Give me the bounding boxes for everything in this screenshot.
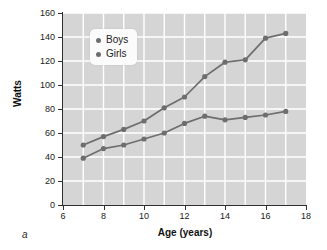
data-point-girls-age-14 <box>222 117 227 122</box>
x-tick-label: 8 <box>94 212 114 221</box>
y-axis-title: Watts <box>12 59 23 129</box>
y-tick-label: 100 <box>31 81 55 90</box>
data-point-boys-age-16 <box>263 36 268 41</box>
data-point-boys-age-12 <box>182 94 187 99</box>
y-tick-mark <box>58 181 62 182</box>
y-tick-mark <box>58 85 62 86</box>
data-point-girls-age-15 <box>243 115 248 120</box>
x-tick-label: 10 <box>134 212 154 221</box>
data-point-girls-age-10 <box>141 136 146 141</box>
data-point-boys-age-14 <box>222 60 227 65</box>
x-tick-label: 14 <box>215 212 235 221</box>
legend: Boys Girls <box>90 29 137 65</box>
data-point-boys-age-15 <box>243 57 248 62</box>
x-tick-mark <box>266 206 267 210</box>
data-point-boys-age-9 <box>121 127 126 132</box>
data-point-girls-age-11 <box>162 130 167 135</box>
x-tick-label: 6 <box>53 212 73 221</box>
y-tick-mark <box>58 133 62 134</box>
figure-panel-a: Watts 020406080100120140160 681012141618… <box>0 0 327 250</box>
x-tick-mark <box>63 206 64 210</box>
legend-label-boys: Boys <box>106 35 128 45</box>
data-point-boys-age-7 <box>81 142 86 147</box>
x-tick-label: 12 <box>175 212 195 221</box>
y-tick-mark <box>58 37 62 38</box>
y-tick-label: 40 <box>31 153 55 162</box>
y-axis-spine <box>62 12 63 206</box>
y-tick-mark <box>58 109 62 110</box>
legend-item-boys[interactable]: Boys <box>96 33 128 47</box>
x-tick-mark <box>306 206 307 210</box>
legend-label-girls: Girls <box>106 49 127 59</box>
data-point-boys-age-10 <box>141 118 146 123</box>
data-point-girls-age-17 <box>283 109 288 114</box>
y-tick-label: 140 <box>31 33 55 42</box>
x-tick-mark <box>225 206 226 210</box>
data-point-girls-age-8 <box>101 146 106 151</box>
y-tick-label: 160 <box>31 9 55 18</box>
data-point-boys-age-17 <box>283 31 288 36</box>
x-tick-mark <box>144 206 145 210</box>
data-point-girls-age-12 <box>182 121 187 126</box>
data-point-boys-age-13 <box>202 74 207 79</box>
panel-label: a <box>22 229 28 240</box>
data-point-boys-age-11 <box>162 105 167 110</box>
y-tick-mark <box>58 205 62 206</box>
legend-dot-icon <box>96 38 101 43</box>
x-axis-title: Age (years) <box>63 227 307 238</box>
data-point-boys-age-8 <box>101 134 106 139</box>
y-tick-mark <box>58 13 62 14</box>
x-tick-mark <box>104 206 105 210</box>
y-tick-label: 120 <box>31 57 55 66</box>
data-point-girls-age-16 <box>263 112 268 117</box>
x-tick-label: 18 <box>296 212 316 221</box>
y-tick-mark <box>58 157 62 158</box>
legend-dot-icon <box>96 52 101 57</box>
y-tick-label: 20 <box>31 177 55 186</box>
y-tick-label: 0 <box>31 201 55 210</box>
x-tick-label: 16 <box>256 212 276 221</box>
y-tick-label: 80 <box>31 105 55 114</box>
legend-item-girls[interactable]: Girls <box>96 47 128 61</box>
x-tick-mark <box>185 206 186 210</box>
data-point-girls-age-9 <box>121 142 126 147</box>
data-point-girls-age-13 <box>202 114 207 119</box>
data-point-girls-age-7 <box>81 156 86 161</box>
y-tick-label: 60 <box>31 129 55 138</box>
y-tick-mark <box>58 61 62 62</box>
